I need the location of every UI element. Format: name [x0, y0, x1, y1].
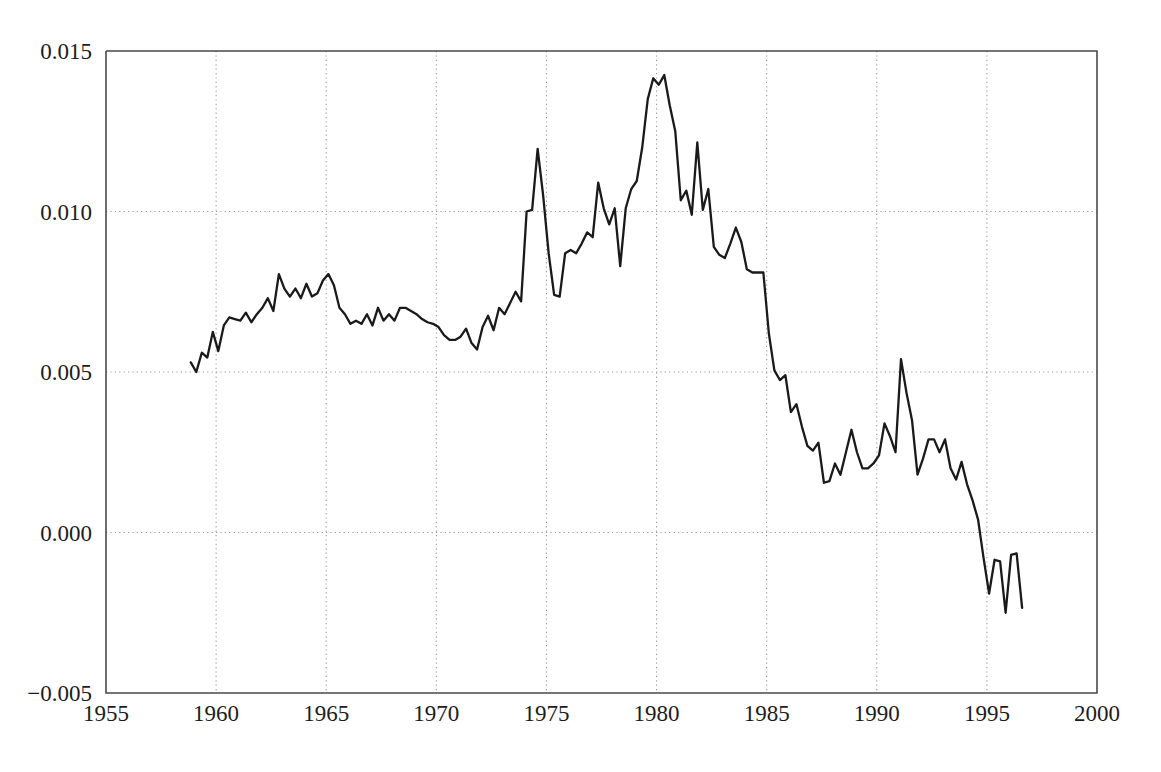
y-tick-label: 0.010: [40, 200, 92, 225]
x-tick-label: 1965: [303, 701, 349, 726]
x-tick-label: 1990: [854, 701, 900, 726]
x-tick-label: 1980: [634, 701, 680, 726]
x-tick-label: 1970: [413, 701, 459, 726]
line-chart: 1955196019651970197519801985199019952000…: [0, 0, 1161, 772]
x-tick-label: 1995: [964, 701, 1010, 726]
y-tick-label: 0.000: [40, 521, 92, 546]
x-tick-label: 1960: [193, 701, 239, 726]
x-tick-label: 1975: [523, 701, 569, 726]
x-tick-label: 1985: [744, 701, 790, 726]
y-tick-label: 0.015: [40, 39, 92, 64]
x-tick-label: 2000: [1074, 701, 1120, 726]
chart-container: 1955196019651970197519801985199019952000…: [0, 0, 1161, 772]
y-tick-label: −0.005: [27, 681, 92, 706]
y-tick-label: 0.005: [40, 360, 92, 385]
